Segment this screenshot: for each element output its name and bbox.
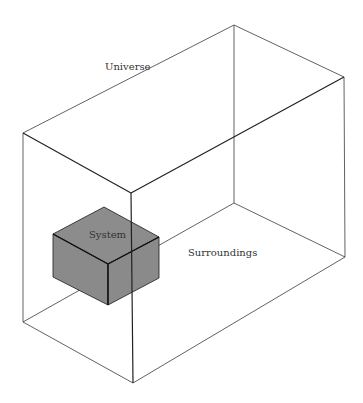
system-cube bbox=[53, 207, 159, 305]
surroundings-label: Surroundings bbox=[188, 247, 257, 258]
universe-label: Universe bbox=[105, 61, 151, 72]
system-label: System bbox=[89, 229, 127, 240]
universe-system-diagram: Universe System Surroundings bbox=[0, 0, 363, 403]
universe-box-edges bbox=[23, 25, 345, 383]
